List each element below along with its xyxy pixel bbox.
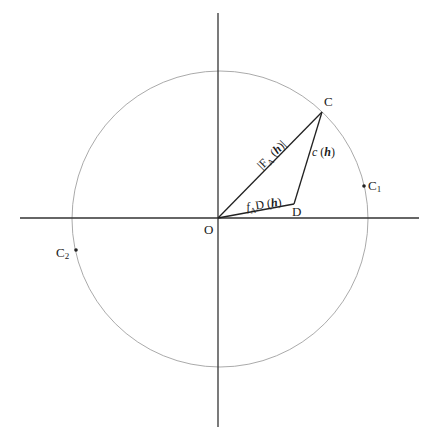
segment-OD-label: fAD (h) [245,195,283,216]
point-C1-dot [362,184,366,188]
point-C-label: C [324,94,333,109]
point-C1-label: C1 [368,178,381,194]
segment-DC-label: c (h) [312,145,335,159]
origin-label: O [204,222,213,237]
segment-OC-label: |FA (h)| [254,138,290,174]
phasor-diagram: O C D C1 C2 |FA (h)| c (h) fAD (h) [0,0,436,442]
point-C2-dot [74,248,78,252]
point-C2-label: C2 [56,245,69,261]
locus-circle [72,71,368,367]
point-D-label: D [292,204,301,219]
